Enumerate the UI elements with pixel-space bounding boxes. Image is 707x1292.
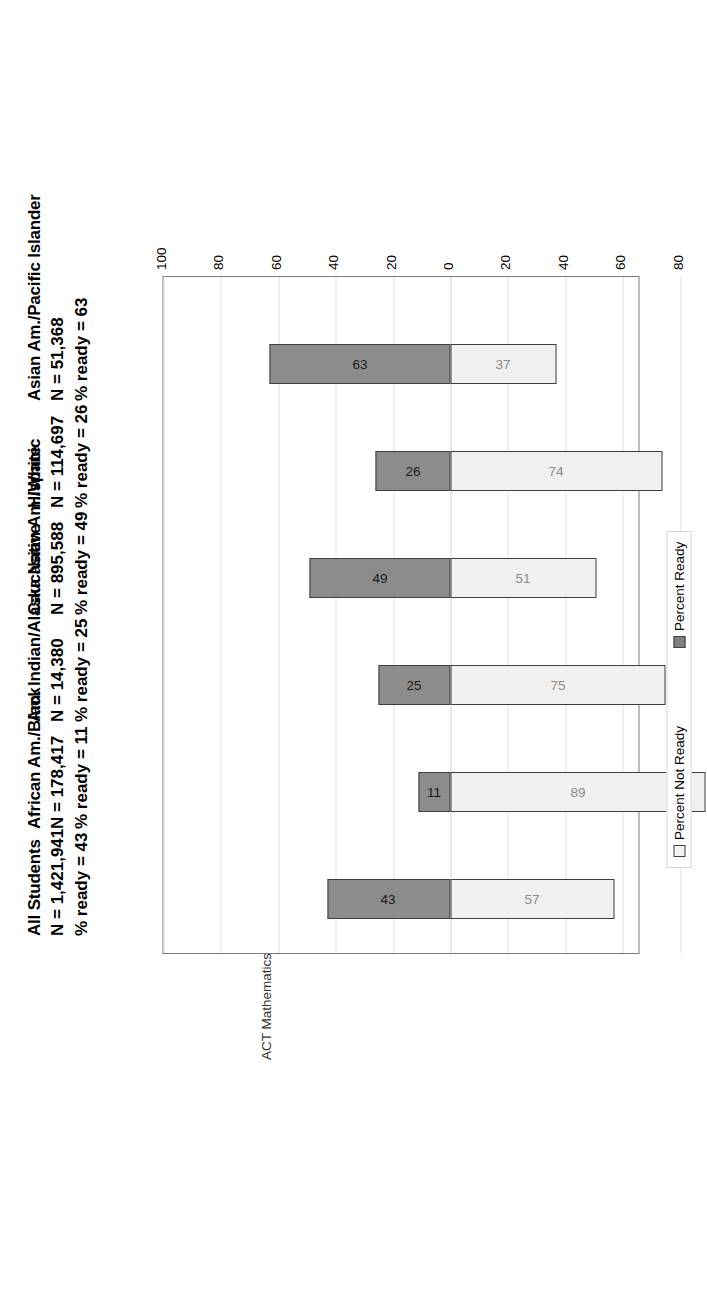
bar-value-ready: 63 [339,357,379,372]
bar-value-not-ready: 74 [536,464,576,479]
bar-value-not-ready: 89 [557,785,597,800]
group-percent-ready: % ready = 63 [69,194,92,401]
axis-tick-label: 40 [555,255,570,270]
group-sample-size: N = 114,697 [45,405,68,509]
bar-value-not-ready: 75 [537,678,577,693]
axis-tick-label: 40 [325,255,340,270]
bar-value-ready: 26 [392,464,432,479]
axis-tick-label: 60 [268,255,283,270]
legend-label: Percent Ready [671,542,686,631]
bar-group: 2575 [163,665,640,705]
bar-value-ready: 49 [359,571,399,586]
group-sample-size: N = 1,421,941 [45,829,68,936]
axis-tick-label: 20 [383,255,398,270]
axis-tick-label: 0 [440,262,455,270]
group-label: Asian Am./Pacific IslanderN = 51,368% re… [22,194,92,401]
legend-swatch-icon [673,845,685,857]
plot-area: 435711892575495126746337 [162,276,639,954]
bar-group: 2674 [163,451,640,491]
chart-legend: Percent Not ReadyPercent Ready [666,531,691,868]
bar-group: 6337 [163,344,640,384]
bar-group: 4951 [163,558,640,598]
bar-value-ready: 43 [368,892,408,907]
bar-value-ready: 25 [394,678,434,693]
group-label: All StudentsN = 1,421,941% ready = 43 [22,829,92,936]
group-name: Hispanic [22,405,45,509]
group-name: Asian Am./Pacific Islander [22,194,45,401]
bar-group: 4357 [163,879,640,919]
group-name: All Students [22,829,45,936]
axis-tick-label: 60 [612,255,627,270]
axis-tick-label: 20 [497,255,512,270]
axis-tick-label: 80 [670,255,685,270]
bar-value-not-ready: 57 [511,892,551,907]
legend-item[interactable]: Percent Ready [671,542,686,648]
group-sample-size: N = 51,368 [45,194,68,401]
axis-tick-label: 80 [210,255,225,270]
axis-tick-label: 100 [153,247,168,270]
legend-swatch-icon [673,636,685,648]
group-percent-ready: % ready = 43 [69,829,92,936]
bar-group: 1189 [163,772,640,812]
legend-item[interactable]: Percent Not Ready [671,726,686,857]
bar-value-not-ready: 37 [483,357,523,372]
group-label: HispanicN = 114,697% ready = 26 [22,405,92,509]
legend-label: Percent Not Ready [671,726,686,840]
group-percent-ready: % ready = 26 [69,405,92,509]
bar-value-ready: 11 [414,785,454,800]
bar-value-not-ready: 51 [503,571,543,586]
rotated-figure: All StudentsN = 1,421,941% ready = 43Afr… [0,0,707,1292]
